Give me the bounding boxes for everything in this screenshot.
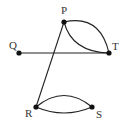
node-label-q: Q <box>9 39 17 51</box>
node-label-s: S <box>96 108 102 120</box>
node-s <box>89 104 94 109</box>
edge-r-s-upper-arc <box>36 96 92 108</box>
node-label-t: T <box>112 40 119 52</box>
node-t <box>106 50 111 55</box>
edge-r-s-lower-arc <box>36 107 92 113</box>
node-label-p: P <box>61 4 67 16</box>
node-q <box>16 50 21 55</box>
node-label-r: R <box>25 107 33 119</box>
graph-diagram: P Q T R S <box>0 0 129 122</box>
edge-p-t-lower-arc <box>64 22 109 53</box>
node-p <box>61 19 66 24</box>
edge-p-r <box>36 22 64 107</box>
node-r <box>33 104 38 109</box>
